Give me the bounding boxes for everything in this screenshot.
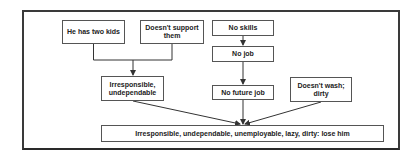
node-doesnt-support: Doesn't support them bbox=[140, 20, 204, 44]
node-label: Doesn't wash; dirty bbox=[293, 82, 349, 98]
node-doesnt-wash: Doesn't wash; dirty bbox=[290, 77, 352, 102]
node-label: Irresponsible, undependable, unemployabl… bbox=[135, 130, 350, 138]
flowchart-diagram: He has two kids Doesn't support them Irr… bbox=[0, 0, 420, 160]
node-no-future-job: No future job bbox=[212, 85, 274, 100]
node-label: Doesn't support them bbox=[143, 24, 201, 40]
node-label: No job bbox=[232, 50, 254, 58]
node-no-skills: No skills bbox=[212, 20, 274, 36]
node-label: No future job bbox=[221, 89, 265, 97]
node-label: Irresponsible, undependable bbox=[104, 81, 161, 97]
node-irresponsible: Irresponsible, undependable bbox=[101, 76, 164, 101]
node-label: No skills bbox=[229, 24, 258, 32]
node-two-kids: He has two kids bbox=[62, 20, 125, 44]
node-no-job: No job bbox=[212, 46, 274, 62]
node-conclusion: Irresponsible, undependable, unemployabl… bbox=[101, 125, 384, 142]
node-label: He has two kids bbox=[67, 28, 120, 36]
